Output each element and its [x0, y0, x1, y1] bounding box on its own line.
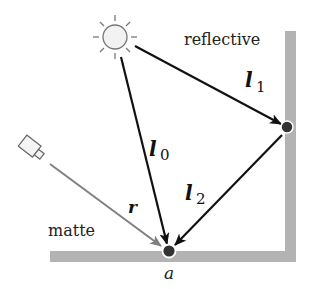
label-reflective: reflective [184, 30, 260, 49]
label-l1: l [245, 68, 253, 92]
label-l2: l [185, 181, 193, 205]
label-l2-subscript: 2 [196, 190, 206, 208]
reflective-wall [285, 31, 296, 262]
label-matte: matte [48, 221, 95, 240]
label-l0-subscript: 0 [160, 146, 170, 164]
label-l1-subscript: 1 [256, 78, 266, 96]
camera-icon [18, 135, 46, 161]
label-ray-r: r [128, 197, 138, 217]
sun-icon [93, 15, 137, 59]
label-point-a: a [164, 263, 174, 283]
point-a [163, 245, 176, 258]
wall-hit-point [281, 121, 293, 133]
light-transport-diagram: reflective matte a r l 0 l 1 l 2 [0, 0, 309, 289]
label-l0: l [149, 137, 157, 161]
